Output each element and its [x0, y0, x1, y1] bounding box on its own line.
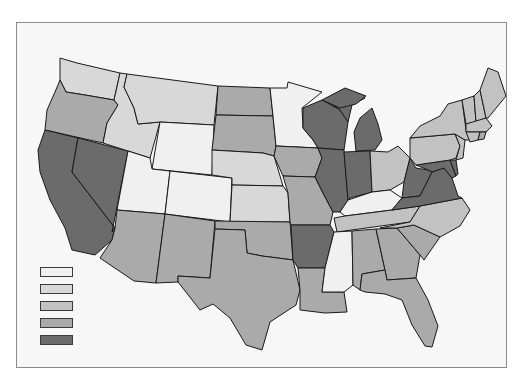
state-ny[interactable] — [410, 100, 470, 140]
legend — [40, 267, 73, 352]
state-in[interactable] — [344, 151, 372, 200]
state-mt[interactable] — [124, 74, 218, 125]
legend-swatch-level-3 — [40, 301, 73, 311]
state-mi-lower[interactable] — [354, 108, 382, 151]
state-ia[interactable] — [274, 146, 322, 177]
legend-swatch-level-2 — [40, 284, 73, 294]
state-nd[interactable] — [216, 86, 273, 116]
state-wy[interactable] — [152, 122, 214, 175]
us-choropleth-map — [0, 0, 530, 387]
state-me[interactable] — [480, 68, 506, 118]
legend-swatch-level-5 — [40, 335, 73, 345]
legend-swatch-level-1 — [40, 267, 73, 277]
state-sd[interactable] — [212, 115, 276, 156]
legend-swatch-level-4 — [40, 318, 73, 328]
state-co[interactable] — [165, 171, 232, 222]
state-fl[interactable] — [360, 270, 438, 347]
state-ri[interactable] — [478, 132, 486, 140]
state-ks[interactable] — [230, 185, 290, 222]
state-nm[interactable] — [156, 214, 215, 283]
